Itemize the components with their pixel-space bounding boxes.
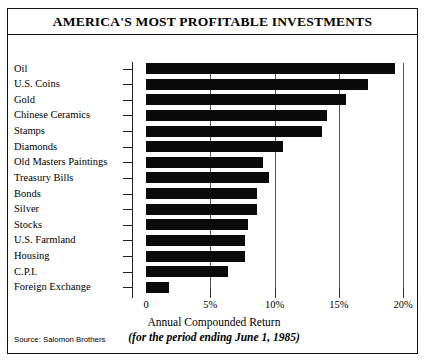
category-label: Stocks: [14, 217, 132, 233]
bar: [146, 63, 395, 74]
x-axis-tick-mark: [210, 288, 211, 297]
chart-source: Source: Salomon Brothers: [14, 335, 105, 344]
bar: [146, 110, 327, 121]
category-label: Old Masters Paintings: [14, 154, 132, 170]
y-axis-tick: [123, 287, 132, 288]
bar: [146, 94, 346, 105]
bar: [146, 266, 228, 277]
category-label: Bonds: [14, 186, 132, 202]
bar: [146, 79, 368, 90]
bar: [146, 204, 257, 215]
x-axis-title: Annual Compounded Return: [0, 316, 428, 328]
y-axis-tick: [123, 178, 132, 179]
y-axis-tick: [123, 147, 132, 148]
bar: [146, 172, 269, 183]
x-axis-tick-mark: [339, 288, 340, 297]
y-axis-line: [132, 62, 133, 298]
bar: [146, 188, 257, 199]
gridline-20%: [403, 63, 404, 298]
y-axis-tick: [123, 69, 132, 70]
y-axis-tick: [123, 100, 132, 101]
category-label: Stamps: [14, 123, 132, 139]
x-axis-tick-mark: [403, 288, 404, 297]
bar: [146, 157, 263, 168]
category-label: Chinese Ceramics: [14, 107, 132, 123]
bar: [146, 219, 248, 230]
x-axis-tick-mark: [275, 288, 276, 297]
y-axis-tick: [123, 194, 132, 195]
y-axis-tick: [123, 209, 132, 210]
bar: [146, 235, 245, 246]
bar: [146, 251, 245, 262]
y-axis-tick: [123, 115, 132, 116]
y-axis-tick: [123, 225, 132, 226]
x-axis-tick-label: 10%: [255, 299, 295, 310]
category-label: Foreign Exchange: [14, 279, 132, 295]
y-axis-tick: [123, 272, 132, 273]
y-axis-tick: [123, 240, 132, 241]
bar: [146, 141, 283, 152]
category-label: U.S. Coins: [14, 76, 132, 92]
x-axis-tick-label: 0: [126, 299, 166, 310]
category-label: Housing: [14, 248, 132, 264]
category-label: Silver: [14, 201, 132, 217]
y-axis-tick: [123, 162, 132, 163]
bar: [146, 282, 169, 293]
chart-plot-area: OilU.S. CoinsGoldChinese CeramicsStampsD…: [0, 0, 428, 362]
category-label: Treasury Bills: [14, 170, 132, 186]
category-label: Oil: [14, 61, 132, 77]
category-label: C.P.I.: [14, 264, 132, 280]
x-axis-tick-label: 15%: [319, 299, 359, 310]
category-label: Gold: [14, 92, 132, 108]
y-axis-tick: [123, 131, 132, 132]
x-axis-tick-label: 5%: [190, 299, 230, 310]
category-label: Diamonds: [14, 139, 132, 155]
y-axis-tick: [123, 84, 132, 85]
y-axis-tick: [123, 256, 132, 257]
category-label: U.S. Farmland: [14, 232, 132, 248]
bar: [146, 126, 322, 137]
x-axis-tick-label: 20%: [383, 299, 423, 310]
